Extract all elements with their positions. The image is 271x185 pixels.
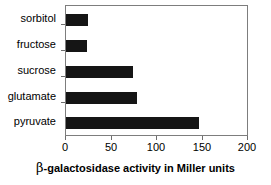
x-axis-tick-200 bbox=[247, 136, 248, 140]
x-axis-label-0: 0 bbox=[45, 141, 85, 154]
x-axis-title: β-galactosidase activity in Miller units bbox=[0, 160, 271, 175]
x-axis-tick-50 bbox=[111, 136, 112, 140]
bar-fructose bbox=[66, 40, 87, 52]
x-axis-tick-0 bbox=[65, 136, 66, 140]
bars-container bbox=[66, 6, 247, 135]
plot-area bbox=[65, 5, 248, 136]
bar-sorbitol bbox=[66, 14, 88, 26]
x-axis-label-50: 50 bbox=[91, 141, 131, 154]
x-axis-label-150: 150 bbox=[182, 141, 222, 154]
x-axis-label-100: 100 bbox=[136, 141, 176, 154]
category-axis-labels: sorbitol fructose sucrose glutamate pyru… bbox=[0, 5, 60, 136]
bar-chart-figure: sorbitol fructose sucrose glutamate pyru… bbox=[0, 0, 271, 185]
bar-pyruvate bbox=[66, 117, 199, 129]
category-label-sorbitol: sorbitol bbox=[21, 12, 56, 24]
category-label-fructose: fructose bbox=[17, 38, 56, 50]
bar-sucrose bbox=[66, 66, 133, 78]
category-label-sucrose: sucrose bbox=[17, 64, 56, 76]
bar-glutamate bbox=[66, 92, 137, 104]
x-axis-title-text: -galactosidase activity in Miller units bbox=[44, 162, 235, 174]
category-label-glutamate: glutamate bbox=[8, 90, 56, 102]
category-label-pyruvate: pyruvate bbox=[14, 115, 56, 127]
x-axis-tick-150 bbox=[202, 136, 203, 140]
beta-symbol: β bbox=[36, 160, 44, 175]
x-axis-label-200: 200 bbox=[227, 141, 267, 154]
x-axis-tick-100 bbox=[156, 136, 157, 140]
